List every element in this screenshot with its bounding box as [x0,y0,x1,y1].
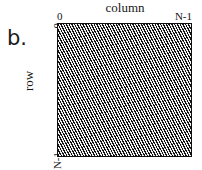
hatched-matrix-region [57,23,192,157]
column-end-tick-label: N-1 [144,10,192,22]
panel-label: b. [7,28,27,49]
row-axis-title: row [22,51,36,111]
column-start-tick-label: 0 [57,10,63,22]
figure-panel-b: b. column row 0 N-1 0 N-1 [0,0,202,170]
